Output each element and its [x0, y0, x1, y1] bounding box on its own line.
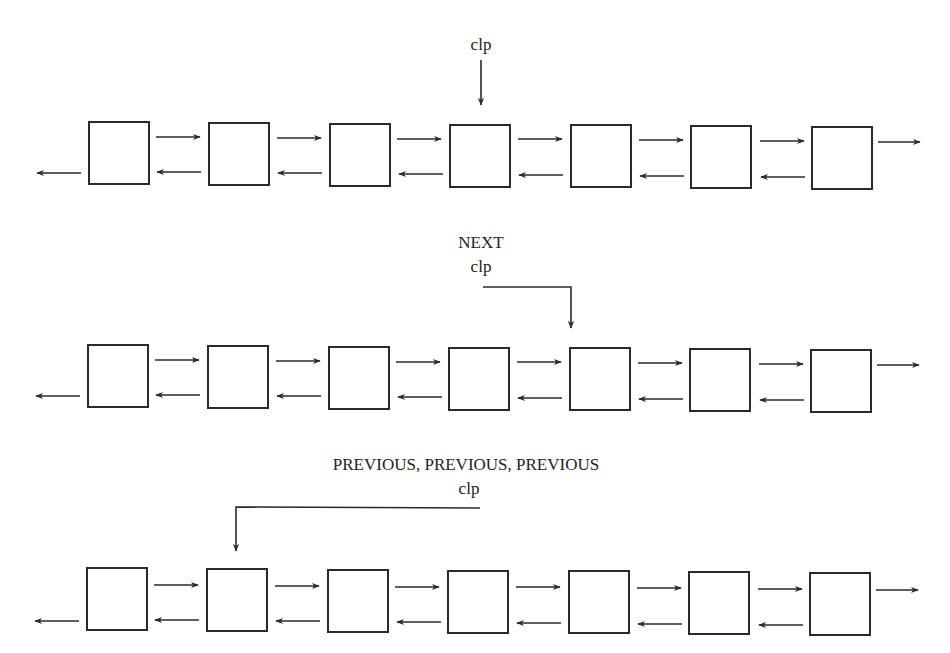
panel-initial: clp	[37, 35, 920, 189]
prev-links	[37, 172, 805, 177]
clp-pointer-arrow	[236, 507, 480, 551]
list-node	[448, 571, 508, 633]
list-node	[811, 350, 871, 412]
list-node	[328, 570, 388, 632]
list-node	[810, 573, 870, 635]
list-node	[330, 124, 390, 186]
list-node	[329, 347, 389, 409]
list-node	[449, 348, 509, 410]
operation-label: PREVIOUS, PREVIOUS, PREVIOUS	[333, 455, 599, 474]
list-node	[571, 125, 631, 187]
list-node	[208, 346, 268, 408]
list-node	[689, 572, 749, 634]
list-node	[691, 126, 751, 188]
list-node	[690, 349, 750, 411]
next-links	[154, 585, 918, 590]
list-nodes	[87, 568, 870, 635]
list-nodes	[89, 122, 872, 189]
prev-links	[36, 395, 804, 400]
list-node-current	[570, 348, 630, 410]
list-node	[88, 345, 148, 407]
clp-pointer-arrow	[483, 287, 571, 328]
list-node	[812, 127, 872, 189]
list-nodes	[88, 345, 871, 412]
list-node	[569, 571, 629, 633]
panel-after-next: NEXT clp	[36, 233, 919, 412]
panel-after-previous-x3: PREVIOUS, PREVIOUS, PREVIOUS clp	[35, 455, 918, 635]
operation-label: NEXT	[458, 233, 504, 252]
list-node	[89, 122, 149, 184]
list-node-current	[207, 569, 267, 631]
clp-label: clp	[471, 35, 492, 54]
next-links	[156, 137, 920, 142]
linked-list-diagram: clp	[0, 0, 950, 653]
prev-links	[35, 620, 803, 625]
list-node-current	[450, 125, 510, 187]
list-node	[209, 123, 269, 185]
clp-label: clp	[459, 479, 480, 498]
list-node	[87, 568, 147, 630]
clp-label: clp	[471, 257, 492, 276]
next-links	[155, 360, 919, 365]
